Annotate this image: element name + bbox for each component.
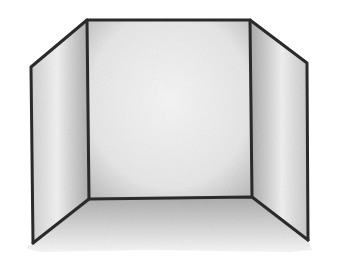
tri-fold-board-drawing <box>0 0 337 273</box>
back-panel <box>87 20 252 199</box>
